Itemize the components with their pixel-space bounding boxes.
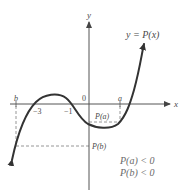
polynomial-graph: y x y = P(x) 0 b −3 −1 a P(a) P(b) P(a) … — [0, 0, 186, 194]
tick-label-neg3: −3 — [33, 107, 42, 116]
pb-label: P(b) — [91, 142, 107, 151]
x-axis-label: x — [173, 99, 178, 109]
pa-label: P(a) — [94, 112, 110, 121]
y-axis-label: y — [86, 10, 91, 20]
tick-label-neg1: −1 — [64, 107, 73, 116]
tick-label-b: b — [14, 94, 18, 103]
function-label: y = P(x) — [125, 29, 160, 41]
polynomial-curve — [12, 44, 144, 160]
origin-label: 0 — [82, 94, 86, 103]
condition-pb: P(b) < 0 — [119, 167, 155, 179]
condition-pa: P(a) < 0 — [119, 155, 155, 167]
tick-label-a: a — [118, 94, 122, 103]
